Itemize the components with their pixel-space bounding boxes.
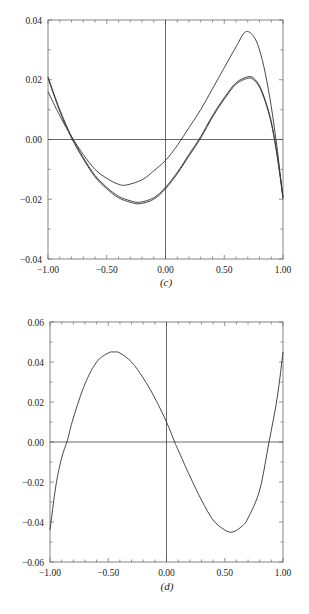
y-tick-label: −0.04 <box>20 255 42 265</box>
chart-c: 0.040.020.00−0.02−0.04 −1.00−0.500.000.5… <box>20 16 292 290</box>
y-tick-label: −0.06 <box>22 558 44 568</box>
x-tick-label: 0.00 <box>158 568 175 578</box>
x-tick-label: 1.00 <box>275 265 292 275</box>
y-tick-label: 0.06 <box>27 318 44 328</box>
y-tick-label: −0.02 <box>22 478 44 488</box>
y-tick-label: 0.00 <box>27 438 44 448</box>
y-tick-labels-c: 0.040.020.00−0.02−0.04 <box>20 16 42 265</box>
y-tick-label: 0.02 <box>25 75 42 85</box>
x-tick-label: −1.00 <box>39 568 61 578</box>
x-tick-label: 0.00 <box>157 265 174 275</box>
x-tick-labels-c: −1.00−0.500.000.501.00 <box>37 265 292 275</box>
x-tick-label: 0.50 <box>216 265 233 275</box>
chart-d: 0.060.040.020.00−0.02−0.04−0.06 −1.00−0.… <box>22 318 292 594</box>
x-tick-label: 1.00 <box>275 568 292 578</box>
x-tick-label: 0.50 <box>216 568 233 578</box>
caption-d: (d) <box>161 580 174 593</box>
y-tick-label: 0.04 <box>27 358 44 368</box>
x-tick-label: −0.50 <box>97 568 119 578</box>
figure: 0.040.020.00−0.02−0.04 −1.00−0.500.000.5… <box>0 0 309 614</box>
x-tick-labels-d: −1.00−0.500.000.501.00 <box>39 568 292 578</box>
y-tick-label: 0.02 <box>27 398 44 408</box>
y-tick-label: 0.04 <box>25 16 42 26</box>
y-tick-labels-d: 0.060.040.020.00−0.02−0.04−0.06 <box>22 318 44 568</box>
caption-c: (c) <box>160 276 173 289</box>
y-tick-label: 0.00 <box>25 135 42 145</box>
y-tick-label: −0.02 <box>20 195 42 205</box>
y-tick-label: −0.04 <box>22 518 44 528</box>
x-tick-label: −0.50 <box>96 265 118 275</box>
x-tick-label: −1.00 <box>37 265 59 275</box>
